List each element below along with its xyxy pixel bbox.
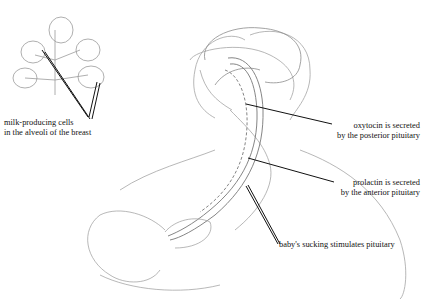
alveoli-cluster-icon xyxy=(13,17,104,95)
lactation-diagram: milk-producing cells in the alveoli of t… xyxy=(0,0,424,299)
nerve-pathway-icon xyxy=(168,58,263,240)
prolactin-label: prolactin is secreted by the anterior pi… xyxy=(341,178,420,198)
sketch-illustration xyxy=(0,0,424,299)
alveoli-label-line1: milk-producing cells xyxy=(4,118,91,128)
oxytocin-label: oxytocin is secreted by the posterior pi… xyxy=(337,121,420,141)
alveoli-label-line2: in the alveoli of the breast xyxy=(4,128,91,138)
oxytocin-label-line1: oxytocin is secreted xyxy=(337,121,420,131)
prolactin-label-line2: by the anterior pituitary xyxy=(341,188,420,198)
sucking-label-line1: baby's sucking stimulates pituitary xyxy=(279,240,395,250)
sucking-label: baby's sucking stimulates pituitary xyxy=(279,240,395,250)
mother-figure-icon xyxy=(120,31,406,299)
baby-figure-icon xyxy=(88,211,220,290)
brain-icon xyxy=(204,28,300,85)
prolactin-label-line1: prolactin is secreted xyxy=(341,178,420,188)
oxytocin-label-line2: by the posterior pituitary xyxy=(337,131,420,141)
alveoli-label: milk-producing cells in the alveoli of t… xyxy=(4,118,91,138)
